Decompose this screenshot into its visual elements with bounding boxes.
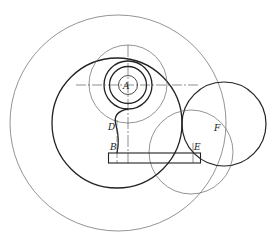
outer-circle [10,15,226,231]
geometry-diagram: A D B E F [0,0,276,238]
label-F: F [213,123,221,133]
circle-lower-thin [149,110,233,194]
label-D: D [107,122,115,132]
label-B: B [109,142,117,152]
label-A: A [122,81,130,91]
label-E: E [193,142,201,152]
base-rectangle [109,153,201,163]
